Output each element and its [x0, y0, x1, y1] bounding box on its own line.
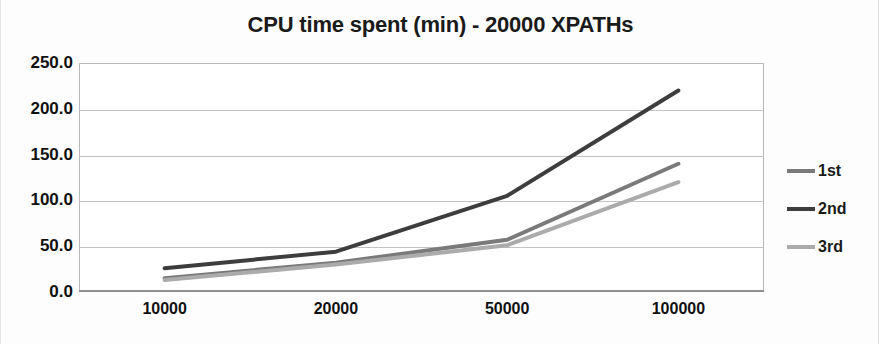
legend-label: 1st: [818, 163, 841, 179]
series-lines: [79, 63, 764, 292]
y-axis-tick-label: 0.0: [1, 282, 73, 302]
y-axis-labels: 250.0200.0150.0100.050.00.0: [1, 63, 73, 292]
legend-label: 3rd: [818, 239, 843, 255]
legend-item-1st[interactable]: 1st: [787, 152, 872, 190]
x-axis-tick-label: 100000: [652, 300, 705, 318]
y-axis-tick-label: 250.0: [1, 53, 73, 73]
chart-container: CPU time spent (min) - 20000 XPATHs 250.…: [0, 0, 879, 344]
legend-swatch-icon: [787, 245, 815, 249]
y-axis-tick-label: 150.0: [1, 145, 73, 165]
y-axis-tick-label: 100.0: [1, 190, 73, 210]
legend-swatch-icon: [787, 169, 815, 173]
chart-legend: 1st2nd3rd: [787, 152, 872, 266]
legend-item-2nd[interactable]: 2nd: [787, 190, 872, 228]
legend-item-3rd[interactable]: 3rd: [787, 228, 872, 266]
plot-area: [79, 63, 764, 292]
x-axis-labels: 100002000050000100000: [79, 300, 764, 332]
y-axis-tick-label: 200.0: [1, 99, 73, 119]
y-axis-tick-label: 50.0: [1, 236, 73, 256]
x-axis-tick-label: 50000: [485, 300, 530, 318]
legend-swatch-icon: [787, 207, 815, 211]
series-line-2nd: [165, 90, 679, 268]
x-axis-line: [79, 290, 764, 292]
x-axis-tick-label: 10000: [142, 300, 187, 318]
chart-title: CPU time spent (min) - 20000 XPATHs: [1, 12, 879, 38]
x-axis-tick-label: 20000: [314, 300, 359, 318]
legend-label: 2nd: [818, 201, 846, 217]
